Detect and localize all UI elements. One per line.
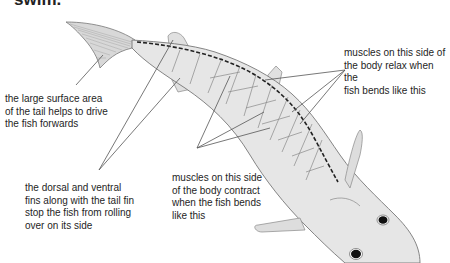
eye-lower <box>350 249 363 260</box>
label-relax: muscles on this side of the body relax w… <box>344 47 450 97</box>
eye-upper <box>377 215 389 225</box>
label-contract: muscles on this side of the body contrac… <box>172 172 262 222</box>
label-tail: the large surface area of the tail helps… <box>5 93 108 131</box>
label-fins: the dorsal and ventral fins along with t… <box>25 182 134 232</box>
tail-fin <box>66 22 135 68</box>
pectoral-fin-lower <box>255 218 305 232</box>
